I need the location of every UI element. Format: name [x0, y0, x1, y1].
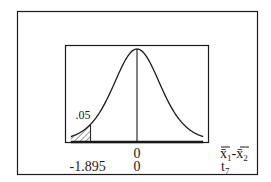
- tick-label-t-0: 0: [134, 159, 141, 174]
- tail-area-label: .05: [76, 108, 91, 122]
- tick-label-t-critical: -1.895: [69, 159, 105, 174]
- axis-label-xdiff-base2: x̄: [236, 146, 243, 161]
- t-distribution-chart: .05 0 -1.895 0 x̄1-x̄2 t7: [0, 0, 271, 182]
- axis-label-xdiff-sub2: 2: [243, 153, 248, 163]
- axis-label-t-sub: 7: [225, 166, 230, 176]
